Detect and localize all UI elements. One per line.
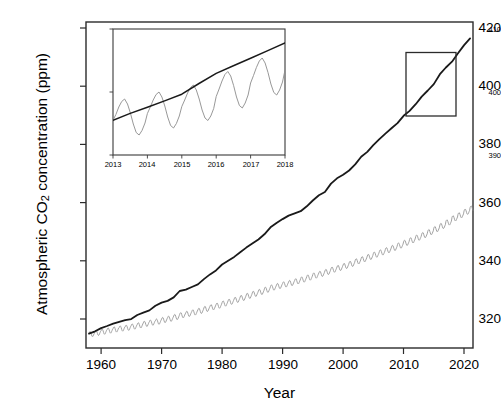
inset-axes-frame	[113, 29, 285, 155]
co2-chart-figure: Atmospheric CO2 concentration (ppm) Year	[0, 0, 501, 412]
main-y-axis-ticks	[80, 28, 86, 319]
chart-canvas	[0, 0, 501, 412]
main-x-axis-ticks	[101, 348, 464, 354]
